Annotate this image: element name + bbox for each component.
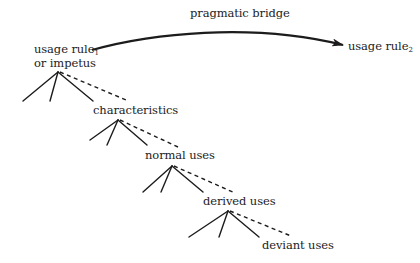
impetus-label: or impetus [34, 58, 96, 70]
derived-uses-label: derived uses [203, 196, 275, 208]
usage-rule-1-text: usage rule [34, 42, 94, 56]
pragmatic-bridge-label: pragmatic bridge [190, 8, 290, 20]
pragmatic-bridge-arrow [92, 32, 343, 50]
deviant-uses-label: deviant uses [262, 240, 334, 252]
usage-rule-2-label: usage rule2 [348, 41, 413, 54]
branch-node-derived-uses [189, 211, 291, 237]
branch-node-impetus [23, 72, 126, 101]
characteristics-label: characteristics [93, 105, 178, 117]
branch-node-characteristics [90, 120, 178, 147]
usage-rule-2-text: usage rule [348, 39, 408, 53]
normal-uses-label: normal uses [145, 150, 215, 162]
branch-node-normal-uses [143, 166, 235, 193]
usage-rule-2-subscript: 2 [408, 46, 412, 54]
